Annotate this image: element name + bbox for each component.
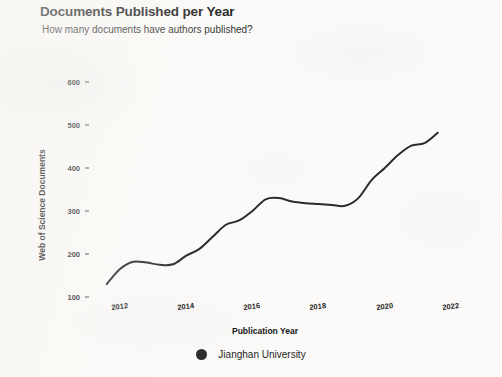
x-tick-label-2022: 2022: [442, 301, 460, 312]
y-tick-label-200: 200: [67, 250, 80, 259]
filled-circle-icon: [196, 349, 207, 360]
chart-canvas: 600 500 400 300 200 100 Web of Science D…: [0, 0, 502, 377]
series-line-jianghan-university: [107, 133, 438, 284]
y-axis-title: Web of Science Documents: [37, 149, 47, 261]
x-axis-title: Publication Year: [232, 326, 299, 336]
y-axis-ticks: [85, 82, 89, 297]
legend-item-jianghan-university: Jianghan University: [218, 349, 305, 360]
y-tick-label-100: 100: [67, 293, 80, 302]
x-tick-label-2014: 2014: [177, 301, 195, 312]
x-tick-label-2018: 2018: [309, 301, 327, 312]
y-tick-label-300: 300: [67, 207, 80, 216]
y-tick-label-600: 600: [67, 78, 80, 87]
y-tick-label-500: 500: [67, 121, 80, 130]
x-tick-label-2020: 2020: [376, 301, 394, 312]
y-tick-label-400: 400: [67, 164, 80, 173]
chart-legend: Jianghan University: [0, 349, 502, 360]
x-tick-label-2012: 2012: [111, 301, 129, 312]
line-chart: 600 500 400 300 200 100 Web of Science D…: [0, 0, 502, 377]
x-tick-label-2016: 2016: [243, 301, 261, 312]
